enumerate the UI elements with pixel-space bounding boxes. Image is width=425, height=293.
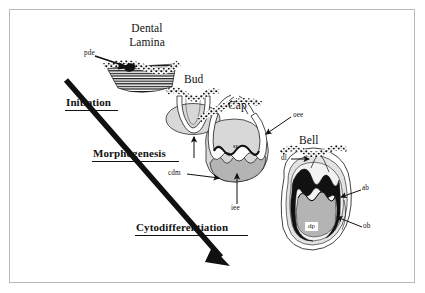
annotation-label-ob: ob: [363, 223, 370, 230]
annotation-label-oee: oee: [293, 112, 303, 119]
stage-dental-lamina: [95, 56, 179, 92]
stage-label-dental-lamina-line1: Dental: [117, 23, 177, 35]
stage-label-dental-lamina-line2: Lamina: [117, 37, 177, 49]
figure-artwork: [0, 0, 425, 293]
figure-root: Dental Lamina Bud Cap Bell Initiation Mo…: [0, 0, 425, 293]
annotation-label-cdm: cdm: [168, 170, 181, 177]
phase-underline-cytodifferentiation: [135, 235, 248, 236]
phase-underline-initiation: [65, 110, 118, 111]
phase-underline-morphogenesis: [92, 161, 179, 162]
phase-label-cytodifferentiation: Cytodifferentiation: [136, 222, 228, 233]
annotation-label-sr-bell: sr: [303, 180, 308, 187]
phase-label-morphogenesis: Morphogenesis: [93, 148, 166, 159]
phase-label-initiation: Initiation: [66, 97, 111, 108]
stage-label-cap: Cap: [228, 100, 247, 112]
annotation-label-ab: ab: [362, 185, 369, 192]
stage-bell: [281, 148, 351, 250]
annotation-label-dl: dl: [281, 155, 287, 162]
stage-label-bud: Bud: [184, 74, 203, 86]
annotation-label-sr-cap: sr: [233, 143, 238, 150]
stage-label-bell: Bell: [299, 135, 319, 147]
annotation-label-pde: pde: [84, 50, 95, 57]
annotation-label-iee: iee: [231, 205, 240, 212]
annotation-label-dp: dp: [305, 222, 318, 231]
